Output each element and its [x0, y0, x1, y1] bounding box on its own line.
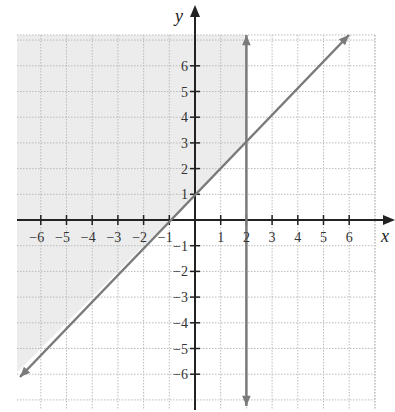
y-tick-label: −5 [173, 342, 188, 357]
y-tick-label: −1 [173, 239, 188, 254]
x-tick-label: −5 [55, 230, 70, 245]
arrowhead-icon [242, 396, 251, 406]
x-tick-label: −4 [81, 230, 96, 245]
coordinate-plane: −6−5−4−3−2−1123456654321−1−2−3−4−5−6 x y [0, 0, 395, 412]
x-tick-label: 3 [269, 230, 276, 245]
x-tick-label: 1 [217, 230, 224, 245]
x-tick-label: −6 [29, 230, 44, 245]
y-axis-label: y [173, 6, 183, 26]
x-tick-label: −2 [132, 230, 147, 245]
shaded-area [17, 35, 246, 372]
x-axis-arrow-icon [383, 215, 395, 225]
y-tick-label: 4 [181, 110, 188, 125]
x-tick-label: 4 [294, 230, 301, 245]
y-axis-arrow-icon [190, 5, 200, 17]
x-tick-label: −3 [106, 230, 121, 245]
y-tick-label: −4 [173, 316, 188, 331]
x-tick-label: 2 [243, 230, 250, 245]
y-tick-label: −2 [173, 264, 188, 279]
y-tick-label: 3 [181, 136, 188, 151]
y-tick-label: −6 [173, 367, 188, 382]
x-tick-label: 5 [320, 230, 327, 245]
x-tick-label: −1 [158, 230, 173, 245]
shaded-region [17, 35, 246, 372]
y-tick-label: 5 [181, 85, 188, 100]
y-tick-label: 6 [181, 59, 188, 74]
x-tick-label: 6 [346, 230, 353, 245]
y-tick-label: −3 [173, 290, 188, 305]
y-tick-label: 1 [181, 187, 188, 202]
y-tick-label: 2 [181, 162, 188, 177]
x-axis-label: x [380, 226, 389, 246]
